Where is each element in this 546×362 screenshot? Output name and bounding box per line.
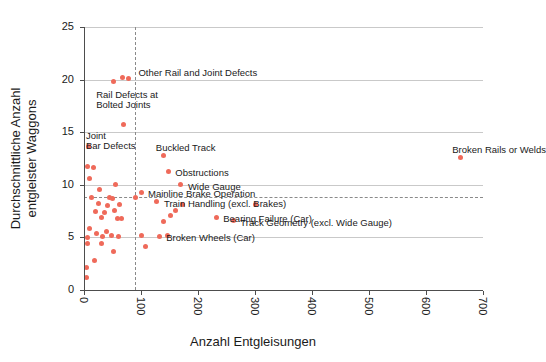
scatter-point [154,199,159,204]
scatter-point [97,187,102,192]
y-tick-label: 10 [48,179,74,190]
scatter-point [102,210,107,215]
point-label: Broken Wheels (Car) [166,232,255,243]
x-tick-mark [84,291,85,295]
point-label: Broken Rails or Welds [452,144,546,155]
y-axis-title: Durchschnittliche Anzahl entgleister Wag… [8,27,40,290]
vertical-reference-line [135,27,136,290]
x-tick-label: 400 [306,297,317,315]
x-axis-line [84,290,483,291]
scatter-point [96,201,101,206]
scatter-point [178,182,183,187]
scatter-point [113,182,118,187]
x-tick-label: 600 [420,297,431,315]
scatter-point [104,229,109,234]
y-axis-line [84,27,85,290]
x-tick-mark [426,291,427,295]
scatter-point [111,79,116,84]
x-tick-mark [141,291,142,295]
scatter-point [110,196,115,201]
scatter-point [161,153,166,158]
point-label: Train Handling (excl. Brakes) [164,198,286,209]
scatter-point [85,235,90,240]
scatter-point [91,165,96,170]
scatter-point [166,169,171,174]
scatter-point [84,275,89,280]
gridline [84,80,483,81]
scatter-point [126,76,131,81]
scatter-point [92,258,97,263]
x-tick-label: 100 [135,297,146,315]
x-tick-label: 500 [363,297,374,315]
x-tick-label: 200 [192,297,203,315]
y-tick-label: 0 [48,284,74,295]
scatter-point [111,249,116,254]
scatter-point [85,164,90,169]
scatter-point [87,176,92,181]
scatter-point [143,244,148,249]
scatter-point [87,226,92,231]
scatter-point [139,190,144,195]
x-tick-mark [255,291,256,295]
point-label: Other Rail and Joint Defects [138,67,257,78]
scatter-point [139,233,144,238]
y-tick-label: 25 [48,21,74,32]
x-tick-label: 300 [249,297,260,315]
x-tick-mark [483,291,484,295]
x-tick-mark [369,291,370,295]
x-tick-mark [312,291,313,295]
scatter-point [119,216,124,221]
point-label: Rail Defects atBolted Joints [96,90,158,111]
scatter-point [112,208,117,213]
x-tick-label: 0 [78,297,89,303]
point-label: JointBar Defects [86,131,136,152]
point-label: Track Geometry (excl. Wide Gauge) [240,217,392,228]
gridline [84,237,483,238]
scatter-point [100,234,105,239]
point-label: Obstructions [175,167,228,178]
x-tick-mark [198,291,199,295]
y-tick-label: 5 [48,231,74,242]
scatter-point [157,234,162,239]
x-axis-title: Anzahl Entgleisungen [0,334,506,349]
scatter-point [458,155,463,160]
scatter-point [94,231,99,236]
scatter-point [214,215,219,220]
scatter-point [85,241,90,246]
y-tick-label: 15 [48,126,74,137]
gridline [84,27,483,28]
scatter-point [99,241,104,246]
scatter-point [117,202,122,207]
scatter-point [93,209,98,214]
scatter-point [89,195,94,200]
scatter-point [168,213,173,218]
scatter-point [121,122,126,127]
scatter-point [84,265,89,270]
x-tick-label: 700 [477,297,488,315]
y-tick-label: 20 [48,74,74,85]
scatter-point [109,233,114,238]
gridline [84,185,483,186]
y-axis-title-line2: entgleister Waggons [24,27,40,290]
scatter-point [133,195,138,200]
scatter-point [105,203,110,208]
y-axis-title-line1: Durchschnittliche Anzahl [8,27,24,290]
point-label: Buckled Track [156,142,216,153]
scatter-point [116,234,121,239]
scatter-point [161,219,166,224]
scatter-point [99,215,104,220]
gridline [84,132,483,133]
